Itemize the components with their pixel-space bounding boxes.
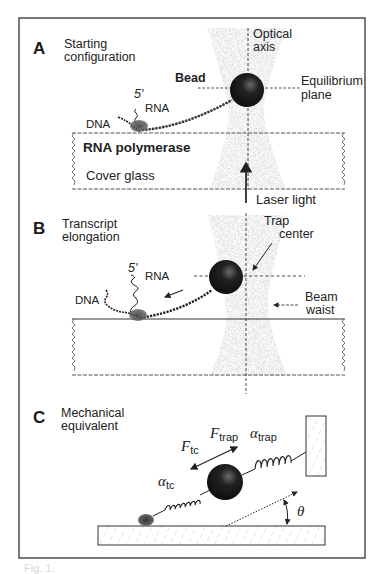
panel-a-letter: A (33, 39, 45, 59)
cover-glass-left-edge-b (72, 319, 75, 371)
alpha-trap-subscript: trap (258, 431, 277, 443)
dna-tether-b (140, 290, 212, 318)
cover-glass-right-edge-b (342, 319, 345, 371)
dna-label-a: DNA (86, 118, 110, 131)
trap-center-label-2: center (279, 228, 314, 241)
panel-a-title-line2: configuration (64, 51, 136, 64)
force-tc-subscript: tc (190, 444, 199, 456)
dna-label-b: DNA (75, 294, 99, 307)
alpha-tc-symbol: α (158, 473, 166, 489)
theta-arc (284, 500, 288, 524)
bead-a (230, 73, 264, 107)
theta-label: θ (297, 505, 304, 518)
force-tc-label: Ftc (181, 440, 199, 454)
equilibrium-plane-label-2: plane (301, 89, 332, 102)
alpha-trap-label: αtrap (250, 427, 277, 441)
trap-wall (306, 416, 326, 476)
five-prime-label-a: 5' (134, 88, 143, 101)
force-trap-label: Ftrap (210, 427, 238, 441)
cover-glass-right-edge (342, 133, 345, 185)
panel-c-title-line2: equivalent (61, 420, 118, 433)
panel-c-letter: C (33, 408, 45, 428)
rna-polymerase-label: RNA polymerase (83, 141, 191, 154)
panel-b-letter: B (33, 219, 45, 239)
motion-arrow-b (165, 290, 183, 297)
laser-light-label: Laser light (256, 193, 316, 206)
optical-trap-figure: A Starting configuration Optical axis Be… (0, 0, 378, 574)
bead-b (209, 260, 243, 294)
figure-caption: Fig. 1. (24, 562, 55, 574)
surface-plate (98, 526, 325, 545)
rna-polymerase-blob-a (130, 120, 148, 132)
rna-polymerase-blob-b (129, 309, 147, 321)
force-tc-symbol: F (181, 438, 190, 454)
spring-trap (255, 456, 291, 469)
bead-label: Bead (175, 72, 206, 85)
five-prime-label-b: 5' (128, 262, 137, 275)
force-trap-symbol: F (210, 425, 219, 441)
panel-b-title-line2: elongation (62, 231, 120, 244)
force-trap-subscript: trap (219, 431, 238, 443)
cover-glass-label: Cover glass (86, 169, 155, 182)
equilibrium-plane-label-1: Equilibrium (301, 75, 363, 88)
beam-waist-label-2: waist (306, 304, 334, 317)
alpha-trap-symbol: α (250, 425, 258, 441)
alpha-tc-label: αtc (158, 475, 174, 489)
angle-reference-arrow (226, 492, 297, 526)
polymerase-anchor-c (138, 514, 154, 526)
spring-tc (165, 500, 200, 510)
bead-c (207, 464, 243, 500)
optical-axis-label-2: axis (253, 41, 275, 54)
cover-glass-left-edge (72, 133, 75, 185)
rna-label-a: RNA (145, 102, 169, 115)
rna-label-b: RNA (145, 270, 169, 283)
alpha-tc-subscript: tc (166, 479, 175, 491)
laser-beam-b (208, 215, 287, 376)
